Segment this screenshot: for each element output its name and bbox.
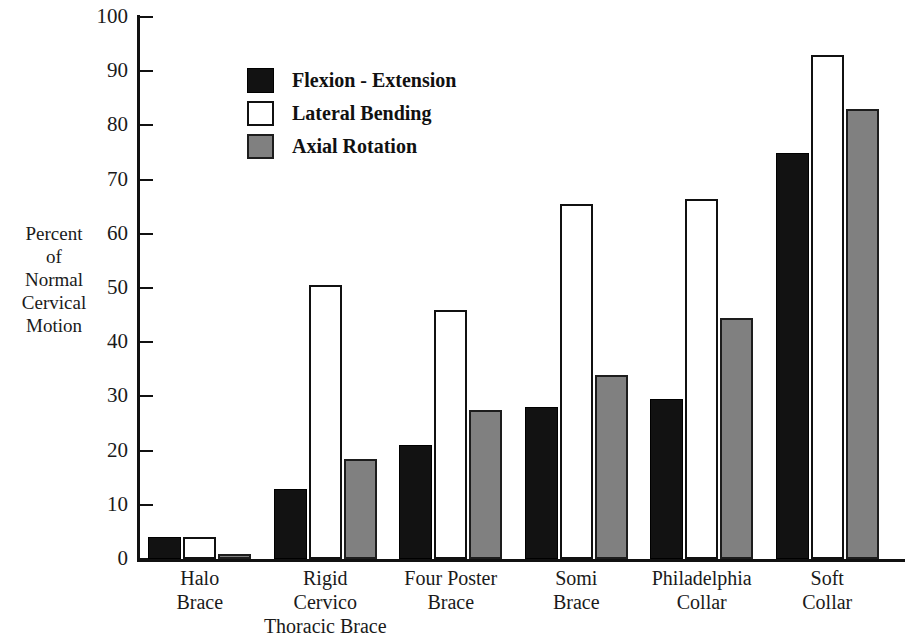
bar[interactable]	[846, 109, 879, 559]
y-axis-tick-label: 90	[82, 60, 128, 81]
bar[interactable]	[595, 375, 628, 559]
bar[interactable]	[274, 489, 307, 559]
legend-label: Lateral Bending	[292, 102, 431, 125]
y-axis-tick-labels: 0102030405060708090100	[82, 0, 128, 629]
bar[interactable]	[469, 410, 502, 559]
y-axis-tick-label: 70	[82, 169, 128, 190]
bar[interactable]	[685, 199, 718, 559]
bar[interactable]	[650, 399, 683, 559]
x-axis-category-label-line: Thoracic Brace	[238, 614, 414, 637]
bar[interactable]	[183, 537, 216, 559]
bar[interactable]	[399, 445, 432, 559]
bar[interactable]	[525, 407, 558, 559]
y-axis-tick-label: 100	[82, 6, 128, 27]
legend-label: Flexion - Extension	[292, 69, 456, 92]
bar[interactable]	[776, 153, 809, 560]
x-axis-category-label-line: Soft	[740, 566, 907, 590]
bar[interactable]	[811, 55, 844, 559]
x-axis-line	[137, 559, 905, 562]
legend-label: Axial Rotation	[292, 135, 417, 158]
bar-group	[765, 17, 891, 559]
y-axis-tick-label: 50	[82, 277, 128, 298]
y-axis-tick-label: 30	[82, 385, 128, 406]
legend-swatch-lateral-bending	[247, 101, 274, 126]
bar-group	[137, 17, 263, 559]
bar[interactable]	[434, 310, 467, 559]
x-axis-category-label: SoftCollar	[740, 566, 907, 614]
y-axis-tick-label: 10	[82, 494, 128, 515]
legend: Flexion - Extension Lateral Bending Axia…	[247, 64, 547, 163]
bar-group	[639, 17, 765, 559]
bar[interactable]	[344, 459, 377, 559]
bar[interactable]	[560, 204, 593, 559]
bar[interactable]	[720, 318, 753, 559]
y-axis-tick-label: 60	[82, 223, 128, 244]
y-axis-tick-label: 80	[82, 114, 128, 135]
legend-swatch-flexion-extension	[247, 68, 274, 93]
legend-swatch-axial-rotation	[247, 134, 274, 159]
legend-item[interactable]: Lateral Bending	[247, 97, 547, 130]
y-axis-tick-label: 40	[82, 331, 128, 352]
bar[interactable]	[218, 554, 251, 559]
legend-item[interactable]: Flexion - Extension	[247, 64, 547, 97]
y-axis-tick-label: 20	[82, 440, 128, 461]
bar[interactable]	[309, 285, 342, 559]
x-axis-category-label-line: Collar	[740, 590, 907, 614]
legend-item[interactable]: Axial Rotation	[247, 130, 547, 163]
bar[interactable]	[148, 537, 181, 559]
